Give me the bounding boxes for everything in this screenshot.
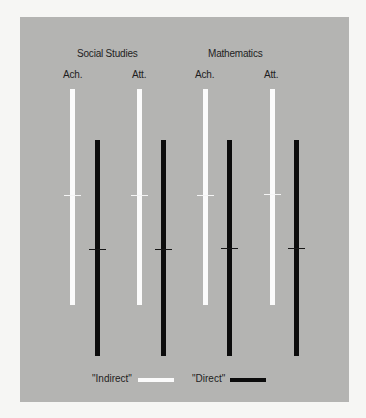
indirect-mean-tick-math-ach [197,195,214,196]
legend-swatch-indirect [138,378,174,382]
indirect-range-bar-ss-ach [70,89,75,305]
indirect-range-bar-math-att [270,89,275,305]
group-label-mathematics: Mathematics [208,48,263,59]
legend-label-indirect: "Indirect" [92,373,132,384]
direct-range-bar-ss-att [161,140,166,356]
indirect-range-bar-math-ach [203,89,208,305]
legend-swatch-direct [230,378,266,382]
indirect-mean-tick-ss-ach [64,195,81,196]
legend-label-direct: "Direct" [192,373,225,384]
measure-label-math-att: Att. [264,69,278,80]
direct-mean-tick-ss-att [155,249,172,250]
measure-label-ss-ach: Ach. [63,69,82,80]
group-label-social-studies: Social Studies [77,48,138,59]
direct-mean-tick-math-ach [221,248,238,249]
indirect-range-bar-ss-att [137,89,142,305]
indirect-mean-tick-ss-att [131,195,148,196]
direct-mean-tick-ss-ach [89,249,106,250]
measure-label-math-ach: Ach. [195,69,214,80]
direct-range-bar-ss-ach [95,140,100,356]
measure-label-ss-att: Att. [132,69,146,80]
indirect-mean-tick-math-att [264,194,281,195]
direct-mean-tick-math-att [288,248,305,249]
